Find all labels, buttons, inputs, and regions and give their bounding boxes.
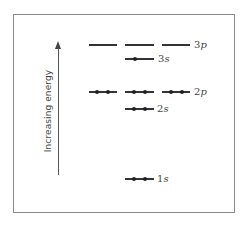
- level-label-3s: 3s: [158, 54, 170, 64]
- energy-axis-arrow: [58, 48, 59, 175]
- orbital-2p-1: [89, 91, 117, 93]
- electron-dot: [132, 107, 136, 111]
- electron-dot: [133, 57, 137, 61]
- electron-dot: [143, 90, 147, 94]
- level-label-1s-orbital: s: [163, 173, 168, 184]
- orbital-3s: [125, 58, 154, 60]
- orbital-2s: [125, 108, 154, 110]
- level-label-3s-orbital: s: [164, 53, 169, 64]
- level-label-2p-orbital: p: [200, 86, 206, 97]
- electron-dot: [143, 177, 147, 181]
- orbital-3p-1: [89, 44, 117, 46]
- level-label-3p-orbital: p: [200, 39, 206, 50]
- orbital-3p-2: [125, 44, 154, 46]
- electron-dot: [132, 177, 136, 181]
- level-label-1s: 1s: [157, 174, 169, 184]
- electron-dot: [143, 107, 147, 111]
- orbital-2p-2: [125, 91, 154, 93]
- electron-dot: [132, 90, 136, 94]
- electron-dot: [106, 90, 110, 94]
- orbital-3p-3: [162, 44, 190, 46]
- electron-dot: [180, 90, 184, 94]
- electron-dot: [95, 90, 99, 94]
- axis-label-energy: Increasing energy: [43, 70, 53, 152]
- level-label-2p: 2p: [194, 87, 207, 97]
- level-label-2s-orbital: s: [163, 103, 168, 114]
- orbital-2p-3: [162, 91, 190, 93]
- level-label-3p: 3p: [194, 40, 207, 50]
- electron-dot: [169, 90, 173, 94]
- orbital-1s: [125, 178, 154, 180]
- level-label-2s: 2s: [157, 104, 169, 114]
